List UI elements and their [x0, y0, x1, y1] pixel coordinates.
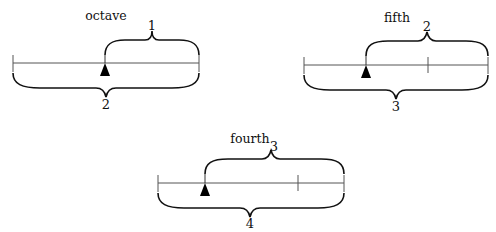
- fifth-lower-ratio: 3: [392, 100, 400, 113]
- lower-brace: [158, 193, 344, 217]
- bridge-arrow-icon: [100, 63, 110, 76]
- bridge-arrow-icon: [200, 183, 210, 196]
- bridge-arrow-icon: [361, 65, 371, 78]
- fifth-title: fifth: [384, 12, 410, 25]
- fourth-panel: [158, 150, 344, 217]
- upper-brace: [105, 31, 199, 55]
- fifth-upper-ratio: 2: [423, 20, 431, 33]
- octave-upper-ratio: 1: [148, 19, 156, 32]
- interval-diagram: …g p… (…) …: [0, 0, 496, 232]
- upper-brace: [366, 32, 488, 56]
- fourth-title: fourth: [230, 133, 269, 146]
- octave-panel: [13, 31, 199, 97]
- fourth-upper-ratio: 3: [270, 140, 278, 153]
- lower-brace: [13, 73, 199, 97]
- lower-brace: [304, 75, 488, 99]
- fourth-lower-ratio: 4: [246, 217, 254, 230]
- octave-title: octave: [85, 10, 126, 23]
- diagram-canvas: [0, 0, 496, 232]
- fifth-panel: [304, 32, 488, 99]
- octave-lower-ratio: 2: [102, 98, 110, 111]
